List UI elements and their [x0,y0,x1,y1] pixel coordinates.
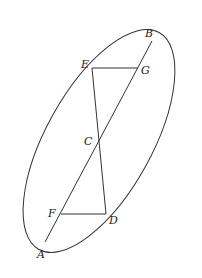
label-F: F [48,208,56,219]
label-B: B [145,28,153,39]
segment-AB [45,41,152,242]
label-E: E [81,59,89,70]
label-C: C [84,136,92,147]
diagram: B E G C F D A [0,0,202,278]
label-G: G [141,65,150,76]
ellipse [0,7,202,275]
label-A: A [37,249,45,260]
label-D: D [109,215,118,226]
segment-ED [92,68,106,214]
diagram-canvas [0,0,202,278]
